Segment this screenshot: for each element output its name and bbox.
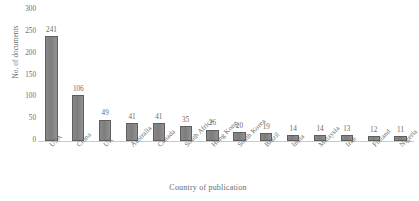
bar: 106: [72, 86, 84, 141]
bar-rect: [45, 36, 57, 141]
bar-value-label: 241: [46, 27, 57, 34]
y-axis-tick-labels: 050100150200250300: [14, 0, 36, 140]
x-axis-title: Country of publication: [0, 183, 416, 192]
bar-value-label: 49: [102, 110, 109, 117]
y-axis-tick-label: 100: [14, 94, 36, 101]
y-axis-tick-label: 300: [14, 6, 36, 13]
bar-value-label: 41: [155, 114, 162, 121]
plot-area: 241106494141352620191414131211: [38, 10, 414, 141]
bar-value-label: 11: [397, 127, 404, 134]
bar-value-label: 35: [182, 117, 189, 124]
bar-value-label: 41: [128, 114, 135, 121]
bar-value-label: 106: [73, 86, 84, 93]
y-axis-tick-label: 200: [14, 50, 36, 57]
x-axis-baseline: [38, 141, 414, 142]
bar-value-label: 14: [290, 126, 297, 133]
x-axis-tick-labels: USAChinaUKAustraliaCanadaSouth AfricaHon…: [38, 143, 414, 183]
y-axis-tick-label: 0: [14, 137, 36, 144]
y-axis-tick-label: 250: [14, 28, 36, 35]
y-axis-tick-label: 150: [14, 72, 36, 79]
bar: 241: [45, 27, 57, 141]
bar-value-label: 14: [316, 126, 323, 133]
bar-value-label: 12: [370, 127, 377, 134]
bar-value-label: 13: [343, 126, 350, 133]
y-axis-tick-label: 50: [14, 116, 36, 123]
